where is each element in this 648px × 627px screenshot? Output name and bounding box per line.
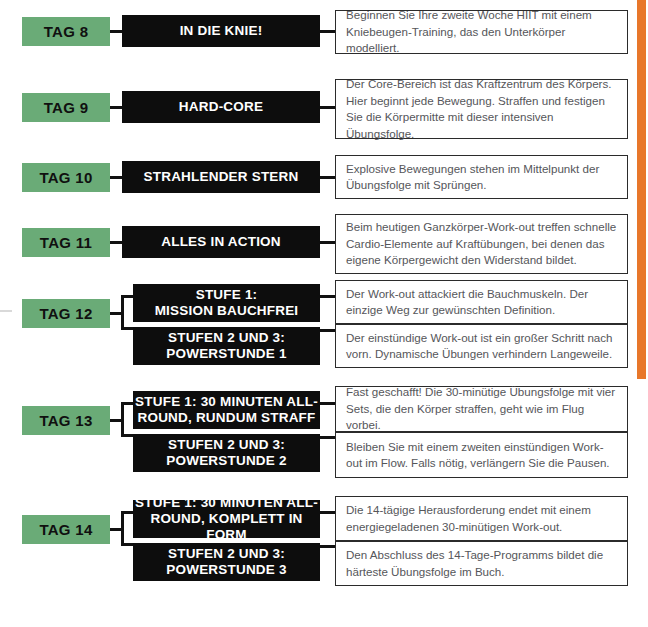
workout-description-panel: Der einstündige Work-out ist ein großer … [335, 324, 628, 368]
workout-description-text: Den Abschluss des 14-Tage-Programms bild… [346, 547, 618, 580]
workout-description-text: Explosive Bewegungen stehen im Mittelpun… [346, 161, 618, 194]
group-bracket [121, 295, 133, 330]
workout-title-box[interactable]: HARD-CORE [122, 91, 320, 123]
box-connector [320, 106, 335, 109]
workout-description-text: Beim heutigen Ganzkörper-Work-out treffe… [346, 219, 618, 269]
workout-description-text: Die 14-tägige Herausforderung endet mit … [346, 502, 618, 535]
box-connector [320, 511, 335, 514]
day-tag[interactable]: TAG 11 [22, 228, 110, 257]
day-tag[interactable]: TAG 9 [22, 93, 110, 122]
workout-description-panel: Fast geschafft! Die 30-minütige Übungsfo… [335, 386, 628, 432]
box-connector [320, 436, 335, 439]
workout-title-box[interactable]: STUFEN 2 UND 3: POWERSTUNDE 3 [133, 543, 320, 581]
day-tag[interactable]: TAG 8 [22, 17, 110, 46]
box-connector [320, 402, 335, 405]
box-connector [320, 241, 335, 244]
box-connector [320, 295, 335, 298]
program-overview-page: TAG 8 IN DIE KNIE! Beginnen Sie Ihre zwe… [0, 0, 648, 627]
orange-accent-bar [637, 0, 646, 379]
workout-title-box[interactable]: IN DIE KNIE! [122, 15, 320, 47]
workout-title-box[interactable]: STUFE 1: MISSION BAUCHFREI [133, 284, 320, 322]
group-bracket [121, 511, 133, 546]
workout-description-panel: Der Core-Bereich ist das Kraftzentrum de… [335, 79, 628, 139]
group-bracket [121, 402, 133, 437]
box-connector [320, 545, 335, 548]
workout-description-text: Bleiben Sie mit einem zweiten einstündig… [346, 439, 618, 472]
box-connector [320, 176, 335, 179]
workout-description-panel: Die 14-tägige Herausforderung endet mit … [335, 496, 628, 541]
workout-description-text: Fast geschafft! Die 30-minütige Übungsfo… [346, 384, 618, 434]
workout-description-text: Der Work-out attackiert die Bauchmuskeln… [346, 286, 618, 319]
workout-title-box[interactable]: STUFEN 2 UND 3: POWERSTUNDE 2 [133, 434, 320, 472]
workout-title-box[interactable]: STUFEN 2 UND 3: POWERSTUNDE 1 [133, 327, 320, 365]
workout-description-text: Der einstündige Work-out ist ein großer … [346, 330, 618, 363]
workout-description-panel: Den Abschluss des 14-Tage-Programms bild… [335, 541, 628, 586]
day-tag[interactable]: TAG 12 [22, 299, 110, 328]
workout-title-box[interactable]: STUFE 1: 30 MINUTEN ALL- ROUND, RUNDUM S… [133, 391, 320, 429]
workout-title-box[interactable]: ALLES IN ACTION [122, 226, 320, 258]
workout-description-panel: Beginnen Sie Ihre zweite Woche HIIT mit … [335, 10, 628, 54]
day-tag[interactable]: TAG 10 [22, 163, 110, 192]
box-connector [320, 329, 335, 332]
workout-description-panel: Explosive Bewegungen stehen im Mittelpun… [335, 155, 628, 199]
workout-description-text: Beginnen Sie Ihre zweite Woche HIIT mit … [346, 7, 618, 57]
day-tag[interactable]: TAG 13 [22, 406, 110, 435]
workout-title-box[interactable]: STRAHLENDER STERN [122, 161, 320, 193]
workout-description-text: Der Core-Bereich ist das Kraftzentrum de… [346, 76, 618, 142]
workout-description-panel: Bleiben Sie mit einem zweiten einstündig… [335, 432, 628, 478]
left-edge-tick [0, 310, 12, 312]
workout-description-panel: Der Work-out attackiert die Bauchmuskeln… [335, 280, 628, 324]
box-connector [320, 30, 335, 33]
workout-description-panel: Beim heutigen Ganzkörper-Work-out treffe… [335, 214, 628, 274]
workout-title-box[interactable]: STUFE 1: 30 MINUTEN ALL- ROUND, KOMPLETT… [133, 500, 320, 538]
day-tag[interactable]: TAG 14 [22, 515, 110, 544]
